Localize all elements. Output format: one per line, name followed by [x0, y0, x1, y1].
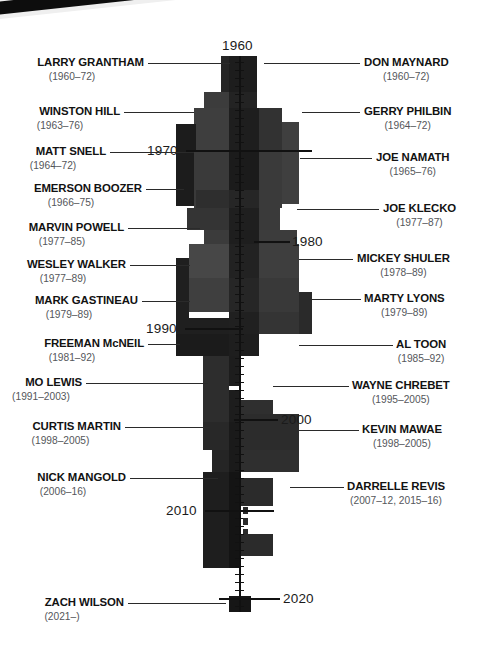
player-years: (1995–2005)	[352, 393, 450, 406]
player-leader-line	[125, 427, 210, 428]
player-leader-line	[290, 487, 344, 488]
player-label-emerson-boozer: EMERSON BOOZER(1966–75)	[0, 182, 142, 209]
player-years: (1978–89)	[357, 266, 450, 279]
player-name: NICK MANGOLD	[0, 471, 126, 484]
player-leader-line	[299, 345, 393, 346]
player-years: (1977–89)	[0, 272, 126, 285]
player-years: (1981–92)	[0, 351, 144, 364]
player-leader-line	[148, 63, 230, 64]
player-label-larry-grantham: LARRY GRANTHAM(1960–72)	[0, 56, 144, 83]
player-years: (1979–89)	[0, 308, 138, 321]
player-name: DARRELLE REVIS	[347, 480, 445, 493]
player-name: ZACH WILSON	[0, 596, 124, 609]
player-years: (1964–72)	[364, 119, 451, 132]
infographic-root: 1960197019801990200020102020 LARRY GRANT…	[0, 0, 482, 662]
player-years: (1998–2005)	[362, 437, 442, 450]
player-leader-line	[124, 112, 194, 113]
player-years: (1965–76)	[376, 165, 449, 178]
player-years: (1977–85)	[0, 235, 124, 248]
player-label-freeman-mcneil: FREEMAN McNEIL(1981–92)	[0, 337, 144, 364]
player-label-mickey-shuler: MICKEY SHULER(1978–89)	[357, 252, 450, 279]
player-leader-line	[302, 112, 360, 113]
player-leader-line	[299, 299, 361, 300]
player-label-don-maynard: DON MAYNARD(1960–72)	[364, 56, 449, 83]
player-name: MATT SNELL	[0, 145, 106, 158]
player-name: MARTY LYONS	[364, 292, 445, 305]
player-years: (1977–87)	[383, 216, 456, 229]
player-label-darrelle-revis: DARRELLE REVIS(2007–12, 2015–16)	[347, 480, 445, 507]
player-years: (2007–12, 2015–16)	[347, 494, 445, 507]
player-name: WINSTON HILL	[0, 105, 120, 118]
player-name: DON MAYNARD	[364, 56, 449, 69]
player-years: (1991–2003)	[0, 390, 82, 403]
player-label-marty-lyons: MARTY LYONS(1979–89)	[364, 292, 445, 319]
player-name: EMERSON BOOZER	[0, 182, 142, 195]
player-name: MO LEWIS	[0, 376, 82, 389]
player-leader-line	[128, 603, 226, 604]
player-name: CURTIS MARTIN	[0, 420, 121, 433]
player-name: WESLEY WALKER	[0, 258, 126, 271]
player-labels: LARRY GRANTHAM(1960–72)WINSTON HILL(1963…	[0, 0, 482, 662]
player-label-joe-namath: JOE NAMATH(1965–76)	[376, 151, 449, 178]
player-name: GERRY PHILBIN	[364, 105, 451, 118]
player-years: (1979–89)	[364, 306, 445, 319]
player-leader-line	[299, 430, 359, 431]
player-years: (1985–92)	[396, 352, 446, 365]
player-leader-line	[130, 265, 190, 266]
player-leader-line	[264, 63, 360, 64]
player-leader-line	[128, 228, 200, 229]
player-label-matt-snell: MATT SNELL(1964–72)	[0, 145, 106, 172]
player-label-joe-klecko: JOE KLECKO(1977–87)	[383, 202, 456, 229]
player-name: FREEMAN McNEIL	[0, 337, 144, 350]
player-name: MARK GASTINEAU	[0, 294, 138, 307]
player-label-al-toon: AL TOON(1985–92)	[396, 338, 446, 365]
player-name: LARRY GRANTHAM	[0, 56, 144, 69]
player-label-nick-mangold: NICK MANGOLD(2006–16)	[0, 471, 126, 498]
player-label-winston-hill: WINSTON HILL(1963–76)	[0, 105, 120, 132]
player-label-kevin-mawae: KEVIN MAWAE(1998–2005)	[362, 423, 442, 450]
player-label-wesley-walker: WESLEY WALKER(1977–89)	[0, 258, 126, 285]
player-label-marvin-powell: MARVIN POWELL(1977–85)	[0, 221, 124, 248]
player-years: (1960–72)	[364, 70, 449, 83]
player-leader-line	[146, 189, 184, 190]
player-label-mark-gastineau: MARK GASTINEAU(1979–89)	[0, 294, 138, 321]
player-years: (1963–76)	[0, 119, 120, 132]
player-label-zach-wilson: ZACH WILSON(2021–)	[0, 596, 124, 623]
player-leader-line	[142, 301, 190, 302]
player-years: (1966–75)	[0, 196, 142, 209]
player-label-curtis-martin: CURTIS MARTIN(1998–2005)	[0, 420, 121, 447]
player-years: (2006–16)	[0, 485, 126, 498]
player-name: JOE NAMATH	[376, 151, 449, 164]
player-name: WAYNE CHREBET	[352, 379, 450, 392]
player-name: MARVIN POWELL	[0, 221, 124, 234]
player-name: AL TOON	[396, 338, 446, 351]
player-label-mo-lewis: MO LEWIS(1991–2003)	[0, 376, 82, 403]
player-years: (1998–2005)	[0, 434, 121, 447]
player-name: JOE KLECKO	[383, 202, 456, 215]
player-leader-line	[273, 386, 349, 387]
player-years: (1960–72)	[0, 70, 144, 83]
player-leader-line	[297, 209, 379, 210]
player-name: MICKEY SHULER	[357, 252, 450, 265]
player-leader-line	[86, 383, 208, 384]
player-label-gerry-philbin: GERRY PHILBIN(1964–72)	[364, 105, 451, 132]
player-years: (2021–)	[0, 610, 124, 623]
player-leader-line	[110, 152, 194, 153]
player-leader-line	[299, 259, 353, 260]
player-years: (1964–72)	[0, 159, 106, 172]
player-leader-line	[130, 478, 218, 479]
player-leader-line	[300, 158, 372, 159]
player-leader-line	[148, 344, 180, 345]
player-label-wayne-chrebet: WAYNE CHREBET(1995–2005)	[352, 379, 450, 406]
player-name: KEVIN MAWAE	[362, 423, 442, 436]
